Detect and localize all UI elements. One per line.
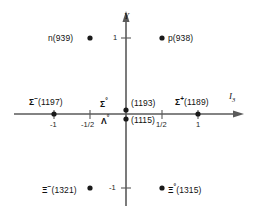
point-sigma-plus	[195, 111, 200, 116]
label-lambda-zero-mass: (1115)	[131, 116, 155, 125]
label-sigma-zero-mass: (1193)	[131, 99, 156, 108]
label-xi-minus: Ξ−(1321)	[42, 184, 77, 194]
x-tick-label-neg-half: -1/2	[81, 121, 94, 129]
label-sigma-plus: Σ+(1189)	[175, 96, 209, 106]
x-axis	[14, 111, 244, 118]
label-lambda-zero: Λ°	[101, 115, 109, 125]
x-axis-label: I3	[229, 92, 235, 103]
point-sigma-zero	[123, 107, 128, 112]
x-tick-label-one: 1	[196, 121, 200, 129]
y-axis-label: Y	[124, 12, 129, 21]
x-tick-label-neg-one: -1	[50, 121, 57, 129]
x-tick-label-half: 1/2	[156, 121, 167, 129]
label-sigma-minus: Σ−(1197)	[29, 96, 63, 106]
point-lambda-zero	[123, 116, 128, 121]
label-sigma-zero: Σ°	[100, 98, 108, 108]
point-neutron	[87, 35, 92, 40]
baryon-octet-diagram: Y I3 n(939) p(938) Σ−(1197) Σ° (1193) Λ°…	[0, 0, 258, 222]
label-neutron: n(939)	[48, 34, 73, 43]
point-sigma-minus	[51, 111, 56, 116]
point-proton	[159, 35, 164, 40]
label-proton: p(938)	[168, 34, 193, 43]
point-xi-minus	[87, 185, 92, 190]
label-xi-zero: Ξ°(1315)	[168, 184, 201, 194]
y-tick-label-one: 1	[113, 34, 117, 42]
y-tick-label-neg-one: -1	[109, 184, 116, 192]
plot-canvas	[0, 0, 258, 222]
point-xi-zero	[159, 185, 164, 190]
